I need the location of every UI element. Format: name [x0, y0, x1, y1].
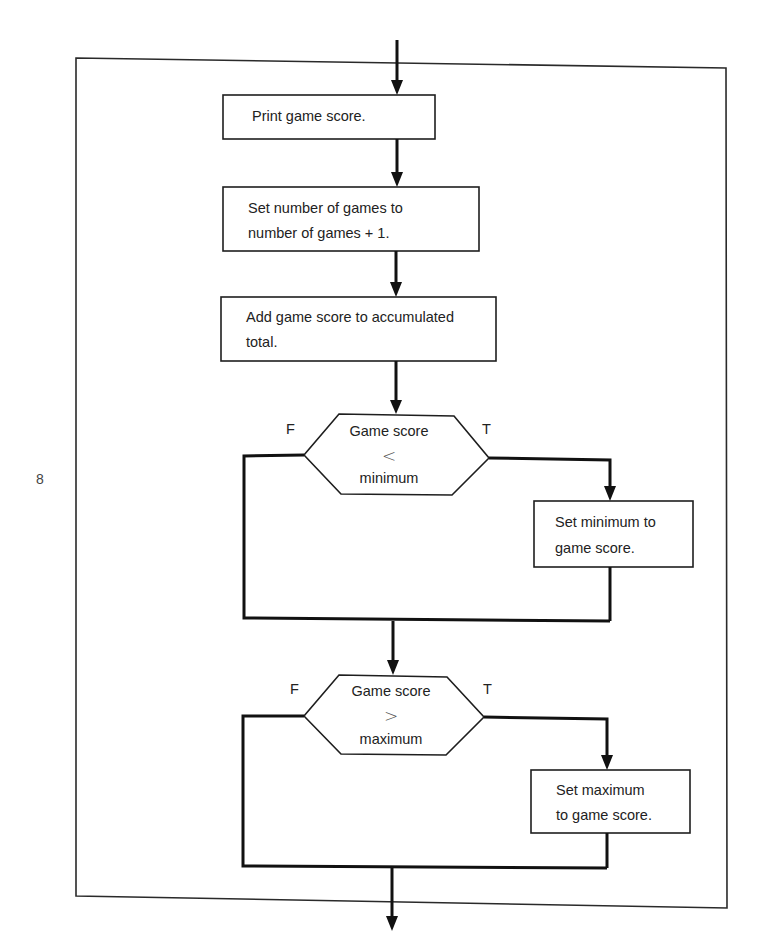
decision-max-true-label: T: [483, 681, 492, 697]
decision-max-false-label: F: [290, 681, 299, 697]
arrow-increment-to-accumulate: [390, 251, 402, 297]
min-true-branch: [489, 458, 616, 501]
step-print-box: Print game score.: [223, 95, 435, 139]
decision-min-line1: Game score: [350, 423, 429, 439]
step-accumulate-line2: total.: [246, 334, 277, 350]
action-set-maximum-box: Set maximum to game score.: [531, 770, 690, 833]
step-accumulate-box: Add game score to accumulated total.: [221, 297, 496, 361]
decision-min-true-label: T: [482, 421, 491, 437]
exit-arrow: [386, 868, 398, 931]
arrow-to-max-decision: [387, 621, 399, 675]
max-true-branch: [484, 717, 613, 770]
action-set-minimum-box: Set minimum to game score.: [534, 501, 693, 567]
decision-max-line3: maximum: [360, 731, 423, 747]
step-print-text: Print game score.: [252, 108, 366, 124]
arrow-accumulate-to-min-decision: [390, 361, 402, 414]
decision-min-operator: <: [382, 446, 396, 466]
step-accumulate-line1: Add game score to accumulated: [246, 309, 454, 325]
action-set-minimum-line2: game score.: [555, 540, 635, 556]
flowchart: 8 Print game score. Set number of games …: [0, 0, 759, 951]
arrow-print-to-increment: [391, 139, 403, 187]
action-set-maximum-line2: to game score.: [556, 807, 652, 823]
action-set-maximum-line1: Set maximum: [556, 782, 645, 798]
decision-min-line3: minimum: [360, 470, 419, 486]
decision-min-false-label: F: [286, 421, 295, 437]
decision-maximum: Game score > maximum: [304, 675, 484, 755]
step-increment-line1: Set number of games to: [248, 200, 403, 216]
step-increment-box: Set number of games to number of games +…: [223, 187, 479, 251]
action-set-minimum-line1: Set minimum to: [555, 514, 656, 530]
entry-arrow: [391, 40, 403, 95]
page-number: 8: [36, 471, 44, 487]
decision-minimum: Game score < minimum: [304, 414, 489, 495]
decision-max-line1: Game score: [352, 683, 431, 699]
decision-max-operator: >: [384, 706, 398, 726]
step-increment-line2: number of games + 1.: [248, 225, 389, 241]
